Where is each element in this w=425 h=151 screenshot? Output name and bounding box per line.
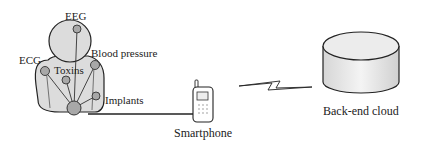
blood-pressure-sensor: [91, 61, 100, 70]
blood-pressure-label: Blood pressure: [91, 47, 157, 59]
wireless-link-icon: [239, 81, 312, 90]
implants-sensor: [92, 92, 100, 100]
eeg-label: EEG: [65, 10, 86, 22]
implants-label: Implants: [105, 94, 144, 106]
cloud-label: Back-end cloud: [323, 104, 399, 118]
body-area-network-diagram: EEG ECG Blood pressure Toxins Implants S…: [0, 0, 425, 151]
ecg-sensor: [41, 67, 50, 76]
human-body-figure: EEG ECG Blood pressure Toxins Implants: [19, 10, 157, 115]
smartphone-label: Smartphone: [174, 126, 232, 140]
cloud-database-icon: [323, 32, 399, 93]
toxins-label: Toxins: [54, 64, 84, 76]
smartphone-icon: [193, 80, 213, 122]
ecg-label: ECG: [19, 54, 41, 66]
toxins-sensor: [62, 76, 70, 84]
head-shape: [49, 20, 91, 62]
eeg-sensor: [73, 25, 81, 33]
hub-sensor: [67, 101, 81, 115]
